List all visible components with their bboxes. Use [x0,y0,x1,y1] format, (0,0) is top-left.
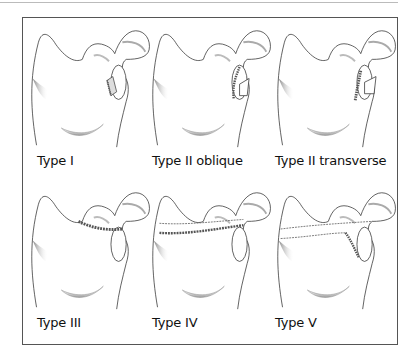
panel-label: Type I [37,153,74,168]
scapula-illustration [273,180,397,320]
scapula-illustration [148,180,272,320]
figure-frame: Type I Type II oblique Type II transvers… [22,17,398,345]
panel-label: Type V [275,315,317,330]
panel-type-ii-transverse: Type II transverse [273,18,397,178]
panel-type-iv: Type IV [148,180,272,340]
panel-label: Type IV [152,315,197,330]
panel-label: Type II transverse [275,153,386,168]
top-rule [0,2,398,3]
panel-type-ii-oblique: Type II oblique [148,18,272,178]
scapula-illustration [27,180,151,320]
panel-type-v: Type V [273,180,397,340]
scapula-illustration [273,18,397,158]
panel-label: Type III [37,315,81,330]
panel-label: Type II oblique [152,153,243,168]
panel-type-iii: Type III [27,180,151,340]
scapula-illustration [27,18,151,158]
scapula-illustration [148,18,272,158]
panel-type-i: Type I [27,18,151,178]
